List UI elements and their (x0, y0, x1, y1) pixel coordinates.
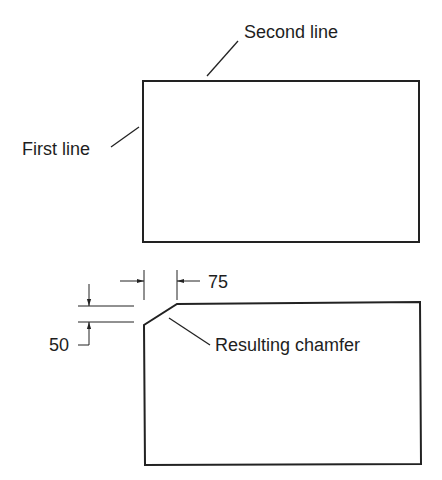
chamfered-rectangle (144, 302, 421, 465)
chamfer-diagram: Second line First line 75 50 Resulting c… (0, 0, 442, 480)
first-line-label: First line (22, 139, 90, 159)
dimension-75-label: 75 (208, 272, 228, 292)
bottom-view: 75 50 Resulting chamfer (49, 270, 421, 465)
original-rectangle (143, 81, 419, 242)
second-line-leader (207, 41, 238, 76)
first-line-leader (111, 127, 139, 147)
dimension-arrow-up (78, 322, 89, 345)
chamfer-leader (169, 318, 210, 345)
top-view: Second line First line (22, 22, 419, 242)
resulting-chamfer-label: Resulting chamfer (215, 335, 360, 355)
second-line-label: Second line (244, 22, 338, 42)
dimension-50-label: 50 (49, 335, 69, 355)
